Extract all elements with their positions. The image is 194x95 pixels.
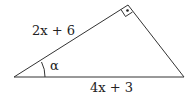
side-label-2x-plus-6: 2x + 6 [32, 23, 75, 38]
right-angle-dot [126, 9, 129, 12]
angle-label-alpha: α [50, 58, 59, 73]
base-label-4x-plus-3: 4x + 3 [90, 80, 133, 95]
triangle [14, 5, 184, 77]
right-triangle-diagram: 2x + 6 α 4x + 3 [0, 0, 194, 95]
angle-arc [42, 62, 46, 77]
